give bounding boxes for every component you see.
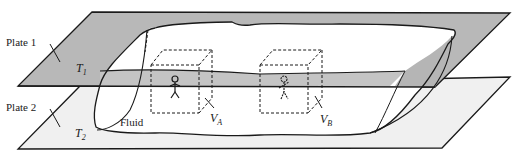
heat-conduction-diagram: VA VB Plate 1 Plate 2 T1 T2 Fluid xyxy=(0,0,525,156)
plate-2-label: Plate 2 xyxy=(6,101,36,113)
fluid-label: Fluid xyxy=(120,116,144,128)
diagram-canvas: VA VB Plate 1 Plate 2 T1 T2 Fluid xyxy=(0,0,525,156)
plate-1-label: Plate 1 xyxy=(6,36,36,48)
